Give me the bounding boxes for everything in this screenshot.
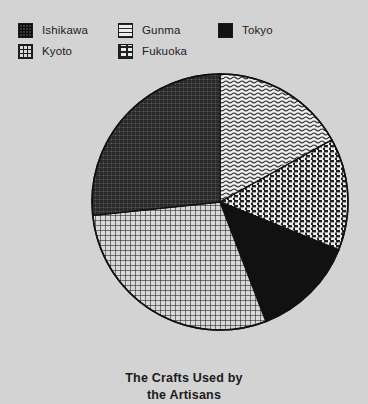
pie-slice-tokyo[interactable] <box>220 202 339 322</box>
legend-row: Kyoto Fukuoka <box>18 41 350 62</box>
chart-title-line-1: The Crafts Used by <box>0 370 368 387</box>
legend-item-tokyo[interactable]: Tokyo <box>218 20 328 41</box>
legend-label-ishikawa: Ishikawa <box>42 23 88 38</box>
pie-outline <box>92 74 348 330</box>
legend-swatch-tokyo-icon <box>218 23 233 38</box>
pie-slice-gunma[interactable] <box>220 74 332 202</box>
pie-slices <box>92 74 348 330</box>
legend-item-ishikawa[interactable]: Ishikawa <box>18 20 118 41</box>
legend-swatch-gunma-icon <box>118 23 133 38</box>
legend-swatch-ishikawa-icon <box>18 23 33 38</box>
legend-item-gunma[interactable]: Gunma <box>118 20 218 41</box>
legend-swatch-kyoto-icon <box>18 44 33 59</box>
legend-label-fukuoka: Fukuoka <box>142 44 187 59</box>
chart-title-line-2: the Artisans <box>0 387 368 404</box>
pie-slice-ishikawa[interactable] <box>92 74 220 215</box>
chart-legend: Ishikawa Gunma Tokyo Kyoto Fukuoka <box>18 20 350 62</box>
chart-title: The Crafts Used by the Artisans <box>0 370 368 404</box>
legend-label-kyoto: Kyoto <box>42 44 72 59</box>
legend-item-fukuoka[interactable]: Fukuoka <box>118 41 218 62</box>
legend-row: Ishikawa Gunma Tokyo <box>18 20 350 41</box>
pie-slice-fukuoka[interactable] <box>220 140 348 250</box>
legend-swatch-fukuoka-icon <box>118 44 133 59</box>
legend-item-kyoto[interactable]: Kyoto <box>18 41 118 62</box>
legend-label-gunma: Gunma <box>142 23 180 38</box>
legend-label-tokyo: Tokyo <box>242 23 273 38</box>
legend-item-spacer <box>218 41 328 62</box>
chart-page: Ishikawa Gunma Tokyo Kyoto Fukuoka <box>0 0 368 404</box>
pie-slice-kyoto[interactable] <box>93 202 266 330</box>
